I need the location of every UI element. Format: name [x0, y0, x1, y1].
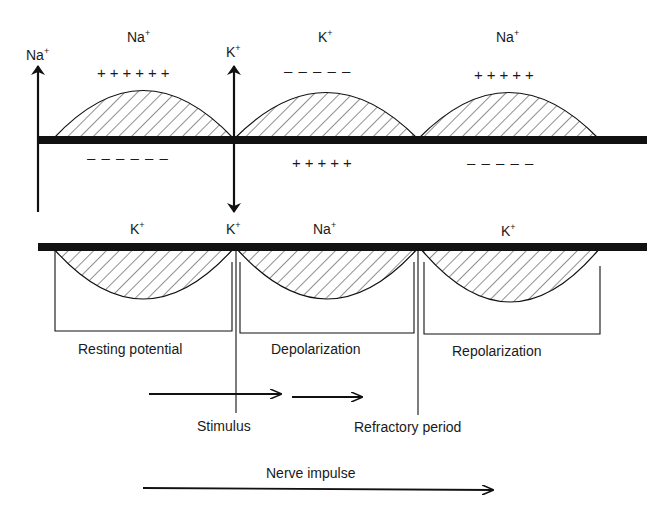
top-bulge-3: [418, 93, 599, 140]
inside-charge-segment1: – – – – – –: [87, 149, 169, 166]
inside-charge-segment2: +++++: [292, 154, 356, 171]
stimulus-label: Stimulus: [197, 418, 251, 434]
bottom-bulge-1: [53, 248, 234, 299]
nerve-impulse-arrow: [143, 488, 493, 490]
phase-label-repolarization: Repolarization: [452, 343, 542, 359]
refractory-period-label: Refractory period: [354, 419, 461, 435]
outside-charge-segment1: ++++++: [97, 64, 174, 81]
label-k-lower-center: K+: [226, 220, 241, 237]
top-membrane-group: [38, 66, 647, 212]
label-na-lower-segment2: Na+: [313, 220, 336, 237]
bottom-bulge-2: [236, 248, 418, 299]
top-bulge-2: [234, 93, 418, 140]
outside-charge-segment2: – – – – –: [284, 62, 351, 79]
label-na-left-arrow: Na+: [26, 46, 49, 63]
bottom-bulge-3: [420, 248, 600, 302]
inside-charge-segment3: – – – – –: [467, 154, 534, 171]
label-k-lower-segment1: K+: [130, 220, 145, 237]
nerve-impulse-diagram: Na+ Na+ K+ K+ Na+ ++++++ – – – – – +++++…: [0, 0, 669, 507]
outside-charge-segment3: +++++: [474, 66, 538, 83]
label-k-segment2: K+: [318, 28, 333, 45]
top-bulge-1: [53, 91, 234, 140]
label-k-center-arrow: K+: [226, 43, 241, 60]
bottom-membrane: [38, 243, 647, 251]
nerve-impulse-label: Nerve impulse: [266, 465, 356, 481]
bottom-membrane-group: [38, 243, 647, 415]
label-k-lower-segment3: K+: [501, 222, 516, 239]
label-na-segment1: Na+: [127, 28, 150, 45]
label-na-segment3: Na+: [496, 28, 519, 45]
top-membrane: [38, 136, 647, 144]
phase-label-depolarization: Depolarization: [271, 341, 361, 357]
phase-label-resting: Resting potential: [78, 341, 182, 357]
